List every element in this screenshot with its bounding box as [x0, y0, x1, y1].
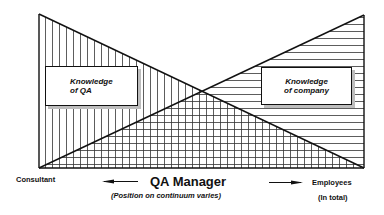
box-right-line1: Knowledge: [285, 77, 328, 86]
position-subtitle: (Position on continuum varies): [111, 191, 221, 200]
qa-manager-title: QA Manager: [150, 174, 226, 189]
left-arrowhead-icon: [102, 178, 114, 185]
box-left-line1: Knowledge: [70, 77, 113, 86]
knowledge-of-qa-box: Knowledge of QA: [45, 66, 138, 106]
in-total-label: (In total): [318, 193, 348, 202]
box-right-line2: of company: [284, 86, 329, 95]
consultant-label: Consultant: [16, 175, 55, 184]
right-arrowhead-icon: [291, 179, 303, 186]
box-left-line2: of QA: [70, 86, 92, 95]
knowledge-of-company-box: Knowledge of company: [261, 67, 352, 105]
employees-label: Employees: [312, 178, 352, 187]
